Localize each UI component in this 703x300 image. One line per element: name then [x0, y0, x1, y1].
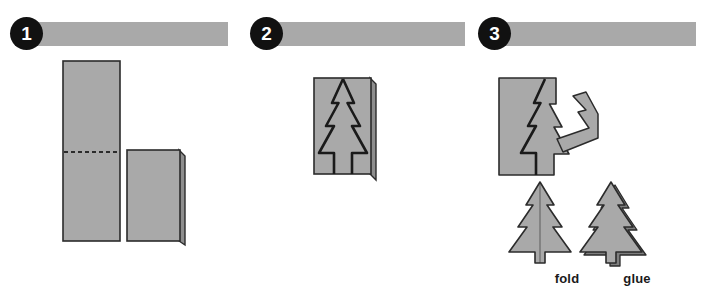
- caption-glue: glue: [607, 271, 667, 286]
- folded-sheet-shape: [314, 78, 371, 174]
- step-badge-3: 3: [478, 17, 511, 50]
- cut-sheet-shape: [499, 78, 569, 175]
- tree-fold-shape: [509, 182, 571, 263]
- tree-outline-shape: [319, 79, 367, 174]
- tree-glue-shape: [580, 182, 646, 266]
- step-bar-2: [255, 22, 465, 46]
- step-badge-2: 2: [250, 17, 283, 50]
- instruction-diagram: 1 2: [0, 0, 703, 300]
- step-badge-1: 1: [10, 17, 43, 50]
- step-bar-1: [15, 22, 228, 46]
- step-panel-3: 3: [468, 0, 703, 300]
- caption-fold: fold: [537, 271, 597, 286]
- step-panel-1: 1: [0, 0, 235, 300]
- scrap-piece-shape: [557, 92, 598, 152]
- step-panel-2: 2: [240, 0, 470, 300]
- folded-sheet-back-edge: [370, 78, 376, 180]
- step-bar-3: [483, 22, 696, 46]
- tree-outline-on-sheet: [521, 79, 545, 175]
- folded-sheet-shape: [127, 150, 185, 245]
- full-sheet-shape: [63, 61, 120, 241]
